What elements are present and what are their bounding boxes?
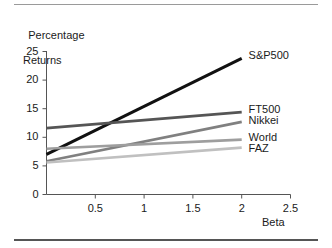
series-label-faz: FAZ — [249, 142, 269, 154]
x-axis-tick-label: 1 — [129, 202, 159, 214]
y-axis-tick-label: 0 — [15, 188, 39, 200]
series-label-s-p500: S&P500 — [249, 49, 289, 61]
series-line-ft500 — [47, 112, 242, 128]
series-label-nikkei: Nikkei — [249, 114, 279, 126]
x-axis-tick-label: 2 — [227, 202, 257, 214]
series-label-world: World — [249, 131, 278, 143]
chart-figure: Percentage Returns Beta 05101520250.511.… — [0, 0, 332, 248]
y-axis-tick-label: 15 — [15, 102, 39, 114]
y-axis-tick-label: 10 — [15, 130, 39, 142]
x-axis-tick-label: 1.5 — [178, 202, 208, 214]
y-axis-tick-label: 20 — [15, 73, 39, 85]
y-axis-tick-label: 25 — [15, 45, 39, 57]
x-axis-tick-label: 0.5 — [80, 202, 110, 214]
x-axis-tick-label: 2.5 — [276, 202, 306, 214]
y-axis-tick-label: 5 — [15, 159, 39, 171]
